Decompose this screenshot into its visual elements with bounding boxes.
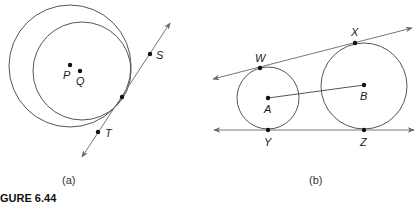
label-p: P [63, 69, 71, 81]
point-tangency [120, 95, 124, 99]
point-a [266, 96, 270, 100]
panel-b: W X A B Y Z (b) [213, 26, 414, 186]
point-b [362, 83, 366, 87]
tangent-line-wx [213, 28, 412, 79]
label-a: A [263, 103, 271, 115]
figure-canvas: P Q S T (a) W X A B Y Z (b) GURE 6.44 [0, 0, 416, 203]
label-t: T [105, 127, 113, 139]
figure-caption: GURE 6.44 [0, 192, 57, 203]
label-s: S [156, 49, 164, 61]
point-p [68, 63, 72, 67]
point-x [353, 41, 357, 45]
label-x: X [350, 26, 359, 38]
label-y: Y [264, 136, 272, 148]
segment-ab [268, 85, 364, 98]
point-q [78, 69, 82, 73]
panel-a: P Q S T (a) [9, 5, 170, 186]
point-y [266, 128, 270, 132]
point-t [96, 130, 100, 134]
point-z [362, 128, 366, 132]
panel-a-label: (a) [62, 174, 75, 186]
panel-b-label: (b) [309, 174, 322, 186]
label-b: B [360, 90, 367, 102]
point-s [148, 52, 152, 56]
label-q: Q [76, 75, 85, 87]
point-w [258, 66, 262, 70]
label-w: W [255, 52, 267, 64]
label-z: Z [359, 136, 368, 148]
